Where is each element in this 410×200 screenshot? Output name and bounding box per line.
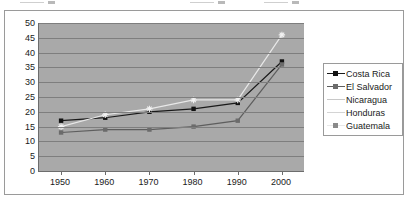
data-point-marker — [191, 107, 195, 111]
data-point-marker — [236, 118, 240, 122]
legend-key-icon — [327, 107, 345, 119]
gridline — [39, 112, 304, 113]
artifact-line — [20, 2, 44, 3]
gridline — [39, 141, 304, 142]
gridline — [39, 97, 304, 98]
y-tick-label: 50 — [9, 19, 35, 28]
legend-item-label: El Salvador — [345, 82, 392, 92]
x-tick-label: 1950 — [40, 177, 80, 187]
x-tick-label: 1970 — [128, 177, 168, 187]
y-tick-label: 5 — [9, 152, 35, 161]
x-tick-mark — [282, 171, 283, 175]
x-tick-label: 1990 — [217, 177, 257, 187]
artifact-line — [264, 2, 288, 3]
series-costa-rica — [59, 59, 284, 123]
legend-key-icon — [327, 94, 345, 106]
series-guatemala — [58, 32, 285, 130]
y-tick-label: 20 — [9, 108, 35, 117]
series-line — [61, 35, 282, 127]
series-el-salvador — [59, 62, 284, 134]
gridline — [39, 127, 304, 128]
legend-item-nicaragua[interactable]: Nicaragua — [327, 93, 400, 106]
legend-item-honduras[interactable]: Honduras — [327, 106, 400, 119]
legend-line-swatch — [327, 99, 345, 100]
legend-marker-swatch — [333, 84, 338, 89]
y-tick-label: 40 — [9, 49, 35, 58]
gridline — [39, 82, 304, 83]
legend-item-label: Honduras — [345, 108, 385, 118]
legend-item-el-salvador[interactable]: El Salvador — [327, 80, 400, 93]
y-axis: 05101520253035404550 — [5, 23, 35, 171]
y-tick-label: 10 — [9, 137, 35, 146]
y-tick-label: 25 — [9, 93, 35, 102]
legend-item-label: Nicaragua — [345, 95, 387, 105]
legend-key-icon — [327, 68, 345, 80]
x-tick-label: 2000 — [261, 177, 301, 187]
chart-root: 05101520253035404550 1950196019701980199… — [0, 0, 410, 200]
gridline — [39, 156, 304, 157]
artifact-speck — [292, 1, 299, 4]
gridline — [39, 53, 304, 54]
y-tick-label: 45 — [9, 34, 35, 43]
legend-marker-swatch — [333, 71, 338, 76]
legend-marker-swatch — [333, 123, 338, 128]
artifact-speck — [218, 1, 225, 4]
data-point-marker — [59, 130, 63, 134]
data-point-marker — [147, 127, 151, 131]
data-point-marker — [280, 62, 284, 66]
data-point-marker — [103, 127, 107, 131]
legend-item-costa-rica[interactable]: Costa Rica — [327, 67, 400, 80]
y-tick-label: 30 — [9, 78, 35, 87]
series-line — [61, 64, 282, 132]
plot-area — [38, 23, 304, 172]
legend-item-label: Costa Rica — [345, 69, 390, 79]
x-tick-label: 1980 — [173, 177, 213, 187]
x-tick-mark — [61, 171, 62, 175]
chart-frame: 05101520253035404550 1950196019701980199… — [4, 10, 404, 195]
y-tick-label: 35 — [9, 63, 35, 72]
artifact-speck — [48, 1, 55, 4]
data-point-marker — [59, 118, 63, 122]
x-tick-mark — [238, 171, 239, 175]
gridline — [39, 38, 304, 39]
legend: Costa RicaEl SalvadorNicaraguaHondurasGu… — [323, 63, 403, 136]
x-tick-mark — [194, 171, 195, 175]
x-tick-label: 1960 — [84, 177, 124, 187]
x-tick-mark — [105, 171, 106, 175]
x-tick-mark — [149, 171, 150, 175]
gridline — [39, 67, 304, 68]
cropped-legend-artifact — [0, 0, 410, 9]
legend-line-swatch — [327, 112, 345, 113]
legend-item-label: Guatemala — [345, 121, 390, 131]
y-tick-label: 15 — [9, 123, 35, 132]
legend-item-guatemala[interactable]: Guatemala — [327, 119, 400, 132]
artifact-line — [190, 2, 214, 3]
y-tick-label: 0 — [9, 167, 35, 176]
gridline — [39, 23, 304, 24]
legend-key-icon — [327, 81, 345, 93]
legend-key-icon — [327, 120, 345, 132]
